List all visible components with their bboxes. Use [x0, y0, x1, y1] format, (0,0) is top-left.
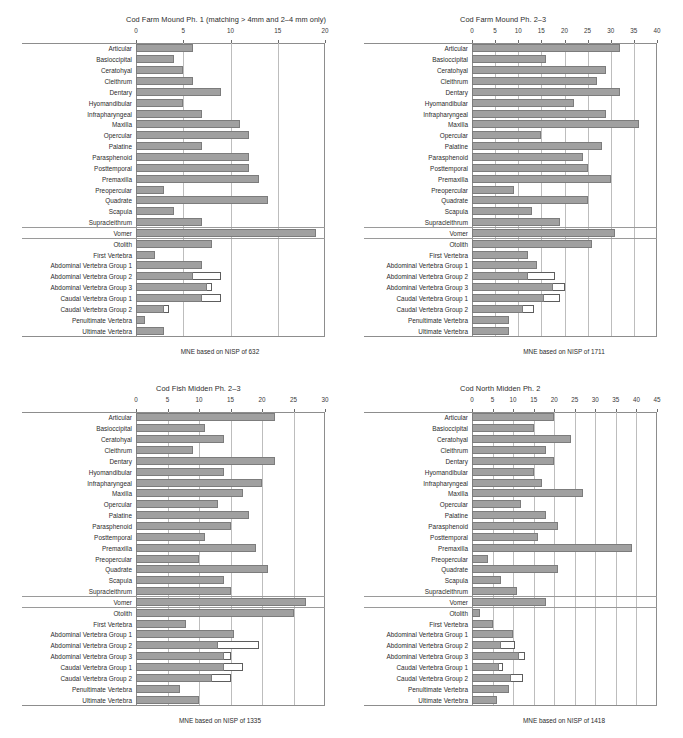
x-tick-label: 10	[195, 396, 202, 403]
bar	[472, 142, 602, 150]
bar	[472, 565, 558, 573]
category-label: Otolith	[449, 240, 468, 247]
bar	[472, 555, 488, 563]
group-separator	[364, 596, 657, 597]
gridline	[575, 412, 576, 705]
bar	[472, 630, 513, 638]
category-label: Quadrate	[105, 197, 132, 204]
bar	[472, 186, 514, 194]
chart-footer: MNE based on NISP of 1335	[120, 717, 320, 724]
category-label: Abdominal Vertebra Group 2	[50, 273, 132, 280]
category-label: Abdominal Vertebra Group 3	[386, 284, 468, 291]
gridline	[278, 43, 279, 336]
category-label: Ultimate Vertebra	[418, 696, 468, 703]
bar	[136, 77, 193, 85]
bar	[136, 565, 268, 573]
bar	[136, 218, 202, 226]
category-label: Premaxilla	[102, 175, 132, 182]
category-label: Penultimate Vertebra	[72, 685, 132, 692]
category-label: Caudal Vertebra Group 1	[396, 295, 468, 302]
bar	[472, 511, 546, 519]
bar	[136, 663, 224, 671]
bar	[472, 598, 546, 606]
bar	[472, 500, 521, 508]
category-label: Premaxilla	[438, 175, 468, 182]
category-label: Articular	[108, 45, 132, 52]
bar	[136, 696, 199, 704]
category-label: Preopercular	[95, 186, 132, 193]
category-label: Articular	[108, 414, 132, 421]
chart-panel-top-left: Cod Farm Mound Ph. 1 (matching > 4mm and…	[0, 0, 342, 369]
category-label: Penultimate Vertebra	[408, 316, 468, 323]
category-label: Infrapharyngeal	[87, 110, 132, 117]
category-label: Basioccipital	[432, 56, 468, 63]
category-label: First Vertebra	[429, 251, 468, 258]
category-label: First Vertebra	[93, 620, 132, 627]
x-tick-label: 0	[134, 396, 138, 403]
x-tick-label: 35	[630, 27, 637, 34]
category-label: Posttemporal	[430, 533, 468, 540]
bar	[136, 153, 249, 161]
plot-bottom-border	[22, 336, 325, 337]
bar	[136, 186, 164, 194]
bar	[472, 576, 501, 584]
gridline	[636, 412, 637, 705]
bar	[472, 316, 509, 324]
bar	[472, 240, 592, 248]
x-tick-mark	[657, 40, 658, 43]
category-label: Supracleithrum	[425, 219, 468, 226]
bar	[136, 261, 202, 269]
bar	[472, 674, 511, 682]
bar	[472, 164, 588, 172]
bar	[136, 468, 224, 476]
bar	[472, 77, 597, 85]
bar	[136, 196, 268, 204]
category-label: Dentary	[109, 457, 132, 464]
category-label: Dentary	[445, 457, 468, 464]
bar	[136, 435, 224, 443]
x-tick-mark	[657, 409, 658, 412]
bar	[472, 251, 528, 259]
category-label: Infrapharyngeal	[423, 110, 468, 117]
category-label: Quadrate	[441, 566, 468, 573]
x-tick-label: 20	[551, 396, 558, 403]
category-label: Ultimate Vertebra	[418, 327, 468, 334]
bar	[472, 175, 611, 183]
bar	[472, 685, 509, 693]
bar	[472, 99, 574, 107]
category-label: Opercular	[440, 501, 468, 508]
gridline	[231, 43, 232, 336]
bar	[136, 652, 224, 660]
bar	[136, 99, 183, 107]
bar	[472, 88, 620, 96]
x-tick-mark	[325, 409, 326, 412]
x-tick-label: 40	[653, 27, 660, 34]
bar	[136, 522, 231, 530]
category-label: Caudal Vertebra Group 2	[60, 305, 132, 312]
x-tick-label: 45	[653, 396, 660, 403]
bar	[472, 55, 546, 63]
category-label: First Vertebra	[93, 251, 132, 258]
category-label: Dentary	[109, 88, 132, 95]
x-tick-label: 5	[181, 27, 185, 34]
category-label: Scapula	[445, 208, 468, 215]
gridline	[554, 412, 555, 705]
x-tick-label: 15	[227, 396, 234, 403]
category-label: Vomer	[449, 598, 468, 605]
category-label: Vomer	[449, 229, 468, 236]
chart-title: Cod Farm Mound Ph. 1 (matching > 4mm and…	[126, 15, 326, 24]
category-label: Penultimate Vertebra	[408, 685, 468, 692]
bar	[136, 598, 306, 606]
chart-footer: MNE based on NISP of 1711	[464, 348, 664, 355]
x-tick-label: 15	[538, 27, 545, 34]
category-label: Caudal Vertebra Group 2	[396, 674, 468, 681]
x-tick-label: 5	[493, 27, 497, 34]
category-label: Scapula	[109, 208, 132, 215]
bar	[472, 261, 537, 269]
category-label: Posttemporal	[94, 533, 132, 540]
category-label: Supracleithrum	[89, 219, 132, 226]
category-label: Maxilla	[448, 121, 468, 128]
bar	[472, 131, 541, 139]
category-label: Premaxilla	[438, 544, 468, 551]
bar	[472, 207, 532, 215]
